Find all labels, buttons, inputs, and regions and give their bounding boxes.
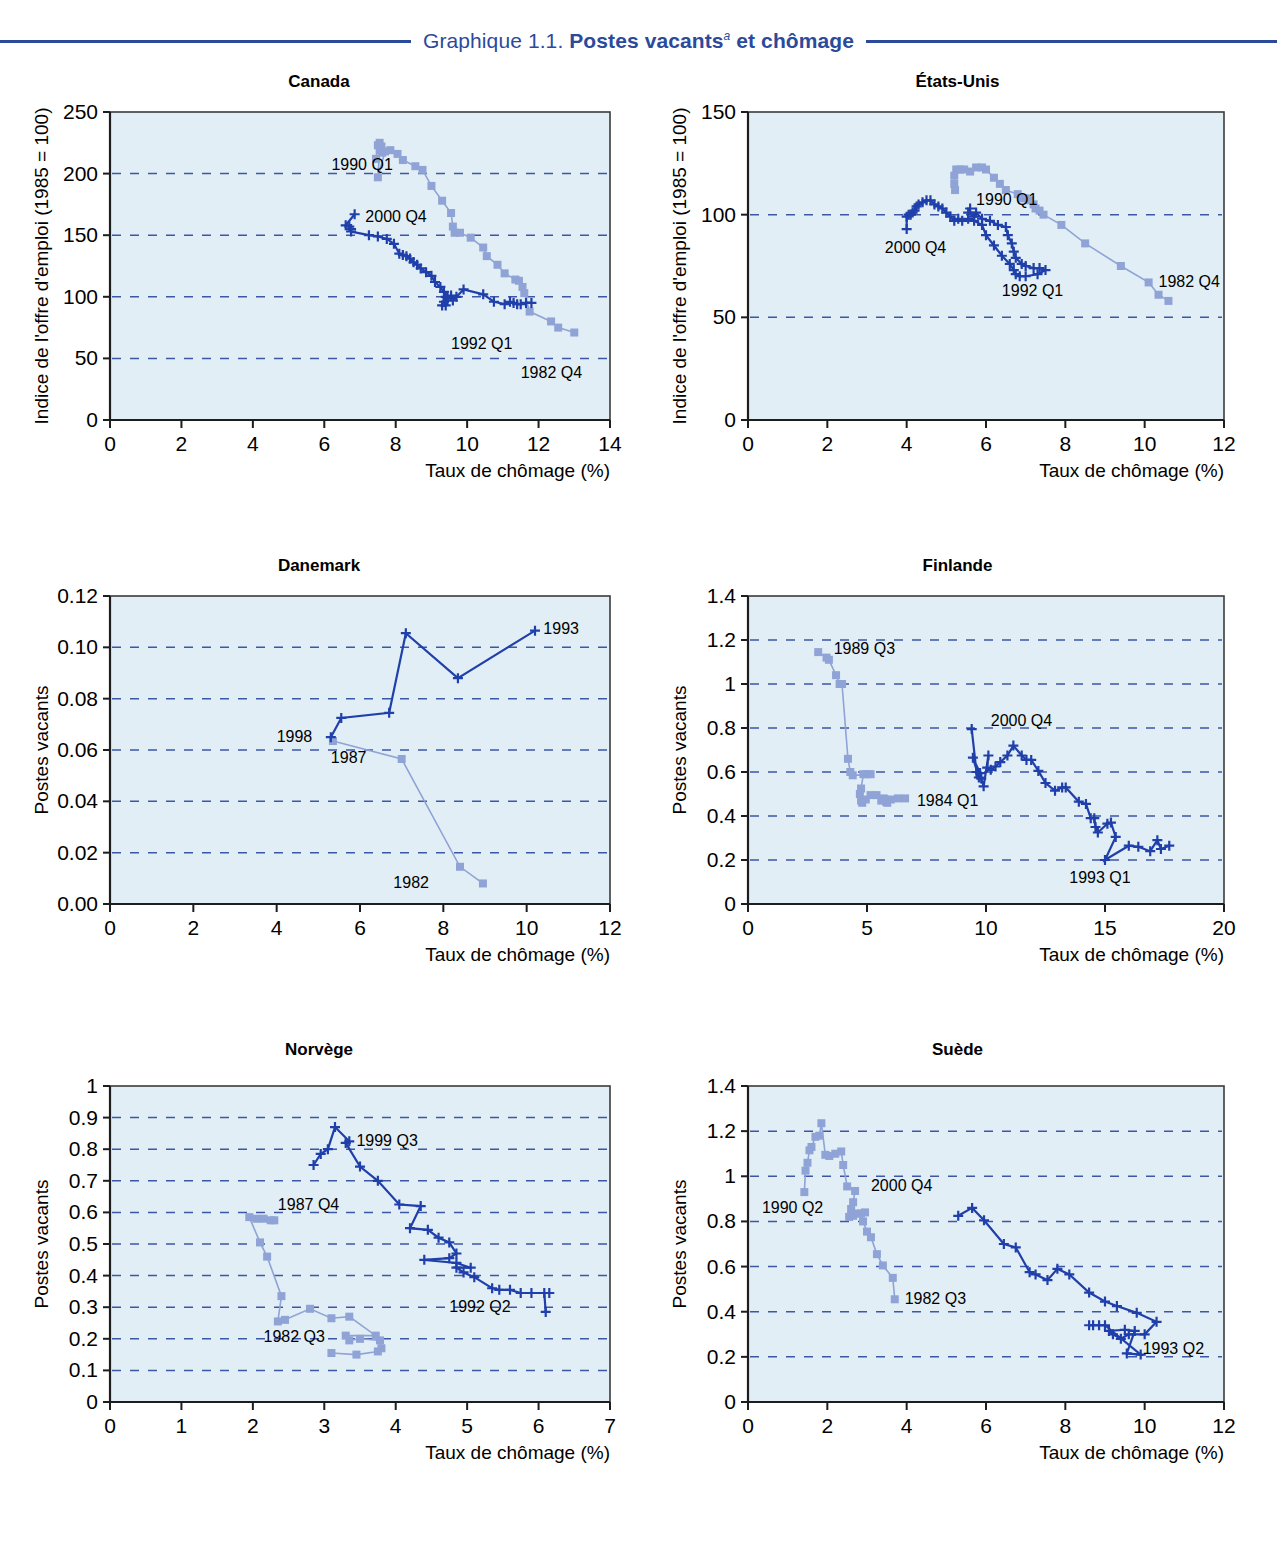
data-point <box>256 1238 264 1246</box>
series-annotation: 1989 Q3 <box>834 640 895 657</box>
x-tick-label: 6 <box>533 1414 545 1437</box>
data-point <box>526 308 534 316</box>
data-point <box>844 755 852 763</box>
x-tick-label: 4 <box>247 432 259 455</box>
y-tick-label: 0.8 <box>69 1137 98 1160</box>
chart-panel-danemark: Danemark0.000.020.040.060.080.100.120246… <box>0 556 638 976</box>
data-point <box>846 768 854 776</box>
data-point <box>950 172 958 180</box>
x-tick-label: 10 <box>1133 432 1156 455</box>
series-annotation: 2000 Q4 <box>365 208 426 225</box>
y-axis-label: Postes vacants <box>31 686 52 815</box>
y-tick-label: 1 <box>724 672 736 695</box>
data-point <box>263 1253 271 1261</box>
series-annotation: 1992 Q1 <box>451 335 512 352</box>
y-tick-label: 0.12 <box>57 584 98 607</box>
y-tick-label: 0.1 <box>69 1358 98 1381</box>
data-point <box>823 654 831 662</box>
data-point <box>252 1215 260 1223</box>
y-tick-label: 0.00 <box>57 892 98 915</box>
data-point <box>857 785 865 793</box>
data-point <box>1057 221 1065 229</box>
x-tick-label: 8 <box>1059 1414 1071 1437</box>
x-tick-label: 12 <box>598 916 621 939</box>
y-tick-label: 0.08 <box>57 687 98 710</box>
y-tick-label: 150 <box>63 223 98 246</box>
data-point <box>447 209 455 217</box>
x-tick-label: 8 <box>1059 432 1071 455</box>
figure-title-rest: et chômage <box>730 29 854 52</box>
series-annotation: 1987 <box>331 749 367 766</box>
y-tick-label: 0.3 <box>69 1295 98 1318</box>
panel-title: Danemark <box>0 556 638 576</box>
y-tick-label: 0.02 <box>57 841 98 864</box>
x-tick-label: 2 <box>176 432 188 455</box>
data-point <box>520 289 528 297</box>
panel-title: Norvège <box>0 1040 638 1060</box>
series-annotation: 1990 Q2 <box>762 1199 823 1216</box>
y-axis-label: Postes vacants <box>669 686 690 815</box>
series-annotation: 1984 Q1 <box>917 792 978 809</box>
data-point <box>501 269 509 277</box>
plot-background <box>748 112 1224 420</box>
x-tick-label: 6 <box>354 916 366 939</box>
data-point <box>879 1261 887 1269</box>
data-point <box>386 146 394 154</box>
y-tick-label: 1.2 <box>707 1119 736 1142</box>
data-point <box>800 1188 808 1196</box>
x-axis-label: Taux de chômage (%) <box>425 944 610 965</box>
series-annotation: 1982 <box>393 874 429 891</box>
data-point <box>1117 262 1125 270</box>
series-annotation: 1990 Q1 <box>331 156 392 173</box>
plot-background <box>748 596 1224 904</box>
y-tick-label: 50 <box>75 346 98 369</box>
data-point <box>274 1317 282 1325</box>
x-axis-label: Taux de chômage (%) <box>1039 460 1224 481</box>
series-annotation: 2000 Q4 <box>871 1177 932 1194</box>
data-point <box>570 329 578 337</box>
y-tick-label: 0.8 <box>707 716 736 739</box>
data-point <box>832 671 840 679</box>
data-point <box>398 755 406 763</box>
chart-panel-su-de: Suède00.20.40.60.811.21.4024681012Postes… <box>638 1040 1277 1480</box>
x-axis-label: Taux de chômage (%) <box>1039 944 1224 965</box>
figure-label: Graphique 1.1. <box>423 29 563 52</box>
data-point <box>327 1314 335 1322</box>
chart-canvas: 00.10.20.30.40.50.60.70.80.9101234567Pos… <box>0 1040 638 1480</box>
y-tick-label: 1.4 <box>707 584 737 607</box>
y-tick-label: 0.4 <box>707 804 737 827</box>
series-annotation: 1982 Q3 <box>905 1290 966 1307</box>
y-tick-label: 0.5 <box>69 1232 98 1255</box>
x-tick-label: 8 <box>437 916 449 939</box>
data-point <box>372 1332 380 1340</box>
x-tick-label: 4 <box>390 1414 402 1437</box>
data-point <box>399 156 407 164</box>
x-tick-label: 10 <box>455 432 478 455</box>
x-tick-label: 8 <box>390 432 402 455</box>
chart-canvas: 050100150024681012Indice de l'offre d'em… <box>638 72 1277 492</box>
series-annotation: 2000 Q4 <box>991 712 1052 729</box>
data-point <box>377 1344 385 1352</box>
series-annotation: 1990 Q1 <box>976 191 1037 208</box>
series-annotation: 2000 Q4 <box>885 239 946 256</box>
data-point <box>849 1198 857 1206</box>
y-axis-label: Postes vacants <box>31 1180 52 1309</box>
data-point <box>990 174 998 182</box>
data-point <box>1081 239 1089 247</box>
figure-title-bold: Postes vacants <box>569 29 723 52</box>
data-point <box>836 680 844 688</box>
y-tick-label: 0.4 <box>707 1300 737 1323</box>
x-tick-label: 20 <box>1212 916 1235 939</box>
x-tick-label: 10 <box>515 916 538 939</box>
data-point <box>891 1295 899 1303</box>
series-annotation: 1998 <box>277 728 313 745</box>
series-annotation: 1993 <box>543 620 579 637</box>
data-point <box>802 1167 810 1175</box>
data-point <box>851 1187 859 1195</box>
data-point <box>483 252 491 260</box>
x-tick-label: 0 <box>104 916 116 939</box>
data-point <box>873 1250 881 1258</box>
y-tick-label: 0.04 <box>57 789 98 812</box>
data-point <box>419 166 427 174</box>
x-tick-label: 4 <box>901 1414 913 1437</box>
